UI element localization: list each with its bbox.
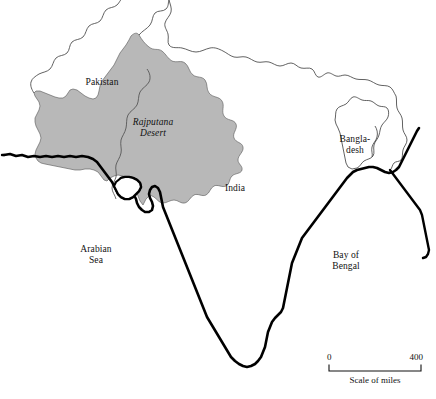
border-bangladesh [335, 97, 389, 169]
label-bangladesh: Bangla- desh [329, 134, 381, 155]
coastline-east-arm [390, 170, 429, 258]
scale-tick-labels: 0 400 [327, 352, 423, 364]
scale-label-start: 0 [327, 352, 332, 362]
scale-bar-graphic [327, 364, 423, 374]
border-kashmir [139, 0, 169, 35]
scale-bar: 0 400 Scale of miles [327, 352, 423, 392]
label-india: India [212, 183, 258, 194]
label-arabian-sea: Arabian Sea [67, 244, 125, 265]
label-bay-of-bengal: Bay of Bengal [318, 250, 374, 271]
map-graphic [0, 0, 436, 399]
scale-label-end: 400 [410, 352, 424, 362]
map-figure: Pakistan India Bangla- desh Rajputana De… [0, 0, 436, 399]
label-pakistan: Pakistan [73, 77, 131, 88]
scale-caption: Scale of miles [327, 375, 423, 385]
label-rajputana-desert: Rajputana Desert [120, 117, 186, 138]
